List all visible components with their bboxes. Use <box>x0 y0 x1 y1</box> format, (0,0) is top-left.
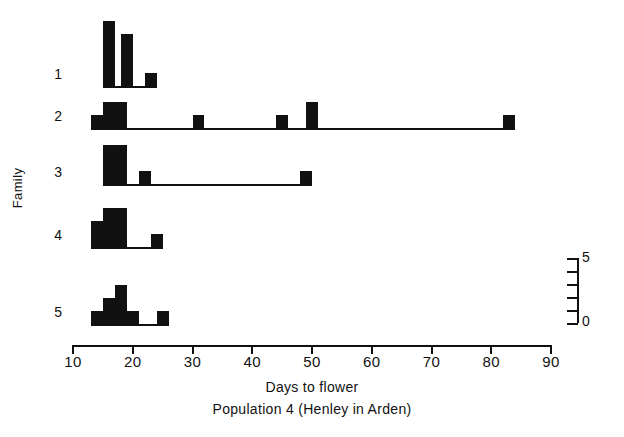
histogram-bar <box>300 171 312 184</box>
x-tick-label: 20 <box>113 353 153 370</box>
x-tick-label: 70 <box>412 353 452 370</box>
histogram-bar <box>103 145 127 184</box>
histogram-bar <box>91 115 103 128</box>
scale-bar-max-label: 5 <box>582 249 590 265</box>
family-baseline-4 <box>91 247 163 249</box>
family-row-label-3: 3 <box>38 164 62 180</box>
x-tick-label: 10 <box>53 353 93 370</box>
family-row-label-5: 5 <box>38 304 62 320</box>
histogram-bar <box>193 115 205 128</box>
x-tick-label: 60 <box>352 353 392 370</box>
scale-bar-tick <box>567 310 578 312</box>
histogram-bar <box>127 311 139 324</box>
histogram-bar <box>103 102 127 128</box>
y-axis-label: Family <box>10 68 25 148</box>
scale-bar-tick <box>567 258 578 260</box>
family-baseline-1 <box>103 86 157 88</box>
histogram-bar <box>115 285 127 324</box>
histogram-bar <box>157 311 169 324</box>
histogram-bar <box>103 298 115 324</box>
family-baseline-3 <box>103 184 312 186</box>
histogram-bar <box>145 73 157 86</box>
histogram-bar <box>276 115 288 128</box>
histogram-bar <box>103 208 127 247</box>
x-tick-label: 50 <box>292 353 332 370</box>
scale-bar-tick <box>567 284 578 286</box>
family-row-label-1: 1 <box>38 66 62 82</box>
scale-bar-tick <box>567 297 578 299</box>
histogram-bar <box>306 102 318 128</box>
histogram-bar <box>139 171 151 184</box>
x-tick-label: 30 <box>173 353 213 370</box>
chart-canvas: Family 12345 102030405060708090 Days to … <box>0 0 624 437</box>
histogram-bar <box>91 221 103 247</box>
x-tick-label: 80 <box>471 353 511 370</box>
family-row-label-2: 2 <box>38 108 62 124</box>
histogram-bar <box>103 21 115 86</box>
scale-bar-tick <box>567 323 578 325</box>
scale-bar-axis <box>577 258 579 323</box>
chart-caption: Population 4 (Henley in Arden) <box>0 401 624 417</box>
scale-bar-min-label: 0 <box>582 313 590 329</box>
histogram-bar <box>121 34 133 86</box>
x-axis-title: Days to flower <box>0 379 624 395</box>
scale-bar-tick <box>567 271 578 273</box>
histogram-bar <box>503 115 515 128</box>
histogram-bar <box>91 311 103 324</box>
family-baseline-2 <box>91 128 515 130</box>
family-row-label-4: 4 <box>38 227 62 243</box>
histogram-bar <box>151 234 163 247</box>
x-tick-label: 40 <box>232 353 272 370</box>
family-baseline-5 <box>91 324 169 326</box>
x-tick-label: 90 <box>531 353 571 370</box>
